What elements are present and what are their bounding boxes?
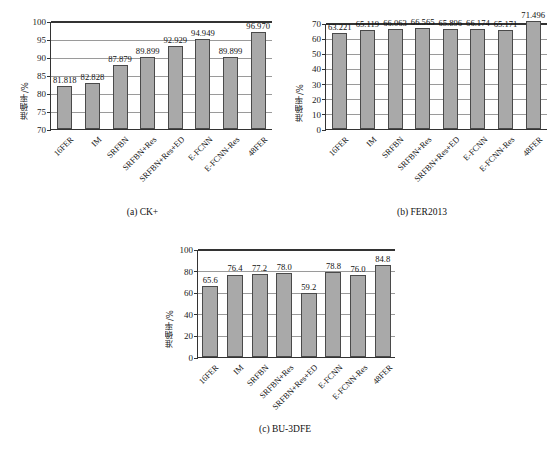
bar-slot: 78.0 bbox=[272, 250, 297, 357]
bar-series: 81.81882.82887.87989.89992.92994.94989.8… bbox=[51, 22, 272, 129]
bar[interactable] bbox=[360, 30, 375, 129]
x-tick-label: IM bbox=[232, 363, 246, 377]
x-axis-labels-a: 16FERIMSRFBNSRFBN+ResSRFBN+Res+EDE-FCNNE… bbox=[50, 133, 272, 193]
y-tick-mark bbox=[47, 130, 51, 131]
chart-panel-bu-3dfe: 准确率/% 020406080100 65.676.477.278.059.27… bbox=[140, 232, 430, 451]
bar-value-label: 89.899 bbox=[219, 47, 243, 56]
bar-slot: 87.879 bbox=[106, 22, 134, 129]
bar-slot: 77.2 bbox=[247, 250, 272, 357]
bar-value-label: 66.063 bbox=[383, 19, 407, 28]
bar[interactable] bbox=[350, 275, 366, 357]
bar[interactable] bbox=[195, 39, 210, 129]
y-tick-mark bbox=[194, 358, 198, 359]
bar[interactable] bbox=[301, 293, 317, 357]
bar-value-label: 65.6 bbox=[203, 276, 218, 285]
bar[interactable] bbox=[113, 65, 128, 129]
bar[interactable] bbox=[443, 29, 458, 129]
bar[interactable] bbox=[227, 275, 243, 358]
bar-value-label: 78.8 bbox=[326, 262, 341, 271]
y-tick-label: 60 bbox=[184, 289, 193, 298]
bar[interactable] bbox=[415, 28, 430, 129]
bar[interactable] bbox=[325, 272, 341, 357]
bar-slot: 82.828 bbox=[79, 22, 107, 129]
panel-caption-b: (b) FER2013 bbox=[285, 207, 559, 217]
y-tick-mark bbox=[322, 130, 326, 131]
y-tick-label: 80 bbox=[37, 90, 46, 99]
plot-area-c: 65.676.477.278.059.278.876.084.8 bbox=[197, 250, 395, 358]
y-axis-ticks-a: 707580859095100 bbox=[24, 22, 46, 130]
panel-caption-a: (a) CK+ bbox=[0, 207, 285, 217]
bar-slot: 94.949 bbox=[189, 22, 217, 129]
y-tick-label: 10 bbox=[312, 110, 321, 119]
bar[interactable] bbox=[223, 57, 238, 129]
y-axis-ticks-c: 020406080100 bbox=[169, 250, 193, 358]
bar-value-label: 66.174 bbox=[466, 19, 490, 28]
y-tick-label: 50 bbox=[312, 50, 321, 59]
bar-slot: 92.929 bbox=[162, 22, 190, 129]
x-tick-label: SRFBN+Res+ED bbox=[271, 363, 320, 412]
x-tick-label: 16FER bbox=[327, 135, 350, 158]
bar[interactable] bbox=[332, 33, 347, 129]
y-tick-label: 60 bbox=[312, 35, 321, 44]
bar-value-label: 96.970 bbox=[246, 22, 270, 31]
bar-value-label: 94.949 bbox=[191, 29, 215, 38]
bar[interactable] bbox=[470, 29, 485, 129]
bar-value-label: 78.0 bbox=[277, 263, 292, 272]
y-tick-label: 75 bbox=[37, 108, 46, 117]
bar[interactable] bbox=[140, 57, 155, 129]
bar-slot: 89.899 bbox=[217, 22, 245, 129]
x-tick-label: SRFBN bbox=[106, 135, 131, 160]
bar-value-label: 76.0 bbox=[351, 265, 366, 274]
bar-value-label: 66.565 bbox=[411, 18, 435, 27]
y-tick-label: 90 bbox=[37, 54, 46, 63]
plot-area-a: 81.81882.82887.87989.89992.92994.94989.8… bbox=[50, 22, 272, 130]
bar-slot: 65.171 bbox=[492, 24, 520, 129]
y-tick-label: 30 bbox=[312, 80, 321, 89]
bar[interactable] bbox=[168, 46, 183, 129]
bar-value-label: 87.879 bbox=[108, 55, 132, 64]
x-tick-label: IM bbox=[89, 135, 103, 149]
y-tick-label: 80 bbox=[184, 267, 193, 276]
figure-bar-charts: 准确率/% 707580859095100 81.81882.82887.879… bbox=[0, 0, 559, 451]
bar-value-label: 82.828 bbox=[81, 73, 105, 82]
y-axis-ticks-b: 010203040506070 bbox=[299, 24, 321, 130]
bar-value-label: 65.119 bbox=[356, 20, 379, 29]
bar[interactable] bbox=[85, 83, 100, 129]
y-tick-label: 40 bbox=[184, 310, 193, 319]
bar[interactable] bbox=[251, 32, 266, 129]
bar-slot: 66.063 bbox=[381, 24, 409, 129]
bar[interactable] bbox=[276, 273, 292, 357]
bar[interactable] bbox=[375, 265, 391, 357]
y-tick-label: 20 bbox=[312, 95, 321, 104]
x-tick-label: 48FER bbox=[246, 135, 269, 158]
bar-slot: 78.8 bbox=[321, 250, 346, 357]
chart-panel-fer2013: 准确率/% 010203040506070 63.22165.11966.063… bbox=[285, 0, 559, 228]
bar-slot: 59.2 bbox=[297, 250, 322, 357]
panel-caption-c: (c) BU-3DFE bbox=[140, 424, 430, 434]
y-tick-label: 100 bbox=[33, 18, 47, 27]
bar-slot: 65.6 bbox=[198, 250, 223, 357]
bar[interactable] bbox=[202, 286, 218, 357]
x-tick-label: IM bbox=[364, 135, 378, 149]
y-tick-label: 20 bbox=[184, 332, 193, 341]
bar-value-label: 65.896 bbox=[438, 19, 462, 28]
bar-value-label: 89.899 bbox=[136, 47, 160, 56]
bar-value-label: 92.929 bbox=[163, 36, 187, 45]
bar-value-label: 65.171 bbox=[494, 20, 518, 29]
bar[interactable] bbox=[526, 21, 541, 129]
bar-slot: 84.8 bbox=[370, 250, 395, 357]
bar[interactable] bbox=[498, 30, 513, 129]
x-axis-labels-c: 16FERIMSRFBNSRFBN+ResSRFBN+Res+EDE-FCNNE… bbox=[197, 361, 395, 421]
bar-slot: 66.565 bbox=[409, 24, 437, 129]
bar[interactable] bbox=[57, 86, 72, 129]
bar[interactable] bbox=[388, 29, 403, 129]
bar-slot: 76.0 bbox=[346, 250, 371, 357]
plot-area-b: 63.22165.11966.06366.56565.89666.17465.1… bbox=[325, 24, 547, 130]
bar-value-label: 81.818 bbox=[53, 76, 77, 85]
bar-slot: 65.119 bbox=[354, 24, 382, 129]
bar-value-label: 63.221 bbox=[328, 23, 352, 32]
bar-series: 63.22165.11966.06366.56565.89666.17465.1… bbox=[326, 24, 547, 129]
bar-slot: 66.174 bbox=[464, 24, 492, 129]
bar[interactable] bbox=[252, 274, 268, 357]
bar-value-label: 71.496 bbox=[521, 11, 545, 20]
